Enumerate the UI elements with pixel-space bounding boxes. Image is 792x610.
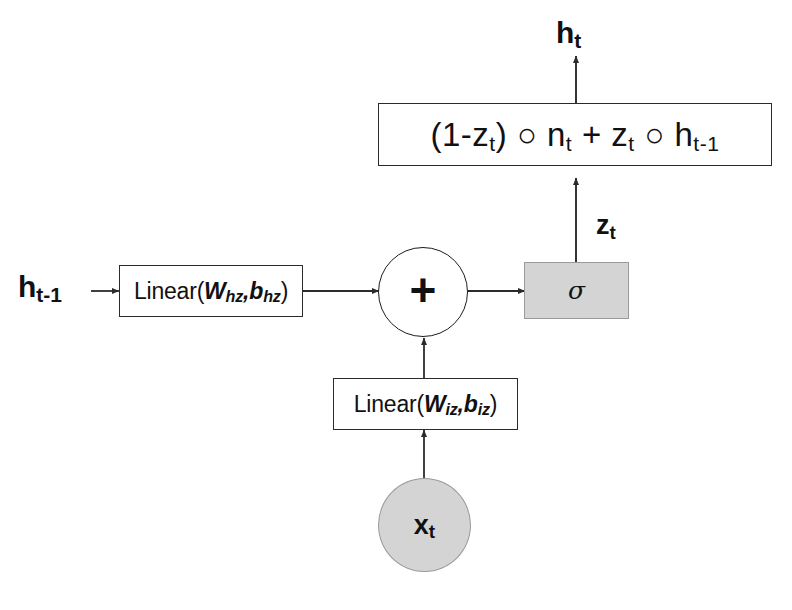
linear-hz-box: Linear(Whz,bhz) <box>119 265 303 317</box>
linear-iz-box: Linear(Wiz,biz) <box>333 378 518 430</box>
sigma-symbol: σ <box>568 276 585 305</box>
diagram-canvas: ht (1-zt) ○ nt + zt ○ ht-1 zt σ ht-1 Lin… <box>0 0 792 610</box>
input-node-x-t: xt <box>378 478 471 572</box>
sigmoid-activation-box: σ <box>524 262 629 319</box>
adder-node: + <box>378 247 468 337</box>
linear-hz-text: Linear(Whz,bhz) <box>134 278 288 305</box>
output-label-h-t: ht <box>556 18 581 48</box>
formula-box: (1-zt) ○ nt + zt ○ ht-1 <box>378 103 772 166</box>
input-node-label: xt <box>414 512 435 539</box>
formula-text: (1-zt) ○ nt + zt ○ ht-1 <box>431 116 720 154</box>
plus-symbol: + <box>410 267 437 313</box>
input-label-h-t-minus-1: ht-1 <box>18 272 62 302</box>
gate-label-z-t: zt <box>596 212 616 239</box>
linear-iz-text: Linear(Wiz,biz) <box>354 391 498 418</box>
